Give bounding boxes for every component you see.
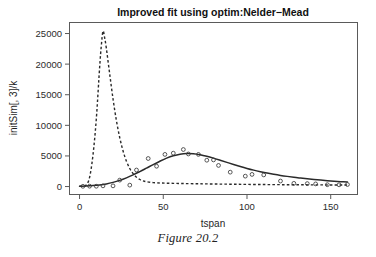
y-tick-label: 10000 [36, 120, 62, 131]
observed-points-layer [81, 148, 349, 189]
x-tick-label: 100 [239, 201, 255, 212]
y-tick-label: 25000 [36, 28, 62, 39]
figure-caption: Figure 20.2 [0, 231, 376, 246]
chart-canvas: Improved fit using optim:Nelder−Mead 050… [0, 0, 376, 257]
series-layer [80, 31, 348, 186]
data-point-marker [217, 164, 221, 168]
data-point-marker [250, 173, 254, 177]
y-axis-title: initSim[, 3]/k [8, 80, 19, 135]
y-tick-label: 0 [57, 181, 62, 192]
x-axis-title: tspan [201, 218, 225, 229]
series-initial-model-dashed [80, 31, 348, 186]
data-point-marker [163, 153, 167, 157]
data-point-marker [146, 157, 150, 161]
y-tick-label: 15000 [36, 89, 62, 100]
data-point-marker [155, 164, 159, 168]
x-tick-label: 0 [77, 201, 82, 212]
y-axis-ticks: 0500010000150002000025000 [36, 28, 70, 192]
data-point-marker [228, 170, 232, 174]
data-point-marker [205, 158, 209, 162]
data-point-marker [262, 173, 266, 177]
data-point-marker [135, 168, 139, 172]
chart-title: Improved fit using optim:Nelder−Mead [117, 6, 309, 18]
y-tick-label: 5000 [41, 150, 62, 161]
data-point-marker [181, 148, 185, 152]
data-point-marker [243, 174, 247, 178]
data-point-marker [111, 184, 115, 188]
y-tick-label: 20000 [36, 59, 62, 70]
x-tick-label: 50 [158, 201, 169, 212]
figure-container: Improved fit using optim:Nelder−Mead 050… [0, 0, 376, 257]
data-point-marker [128, 183, 132, 187]
data-point-marker [171, 151, 175, 155]
x-tick-label: 150 [323, 201, 339, 212]
data-point-marker [279, 179, 283, 183]
x-axis-ticks: 050100150 [77, 195, 339, 212]
plot-frame [70, 23, 358, 195]
